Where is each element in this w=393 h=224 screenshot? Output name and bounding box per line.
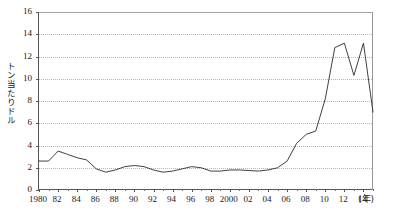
x-tick-label: 86 — [91, 194, 100, 204]
x-tick-label: 04 — [263, 194, 272, 204]
y-tick-label: 14 — [8, 29, 32, 38]
x-tick-label: 02 — [243, 194, 252, 204]
x-tick-label: 12 — [339, 194, 348, 204]
y-tick-label: 16 — [8, 7, 32, 16]
x-tick-label: 92 — [148, 194, 157, 204]
y-tick-label: 12 — [8, 52, 32, 61]
x-tick-label: 96 — [186, 194, 195, 204]
x-axis-unit-label: (年) — [358, 194, 374, 204]
x-tick-label: 88 — [110, 194, 119, 204]
x-tick-label: 08 — [301, 194, 310, 204]
x-tick-label: 2000 — [220, 194, 238, 204]
x-tick-label: 82 — [53, 194, 62, 204]
x-tick-label: 84 — [72, 194, 81, 204]
series-line-chart — [39, 12, 373, 190]
y-tick-label: 4 — [8, 141, 32, 150]
y-tick-label: 0 — [8, 185, 32, 194]
series-line-path — [39, 43, 373, 172]
x-tick-label: 06 — [282, 194, 291, 204]
x-tick-label: 10 — [320, 194, 329, 204]
x-tick-mark — [373, 189, 374, 191]
x-tick-label: 94 — [167, 194, 176, 204]
x-tick-label: 90 — [129, 194, 138, 204]
y-axis-title: トン当たりドル — [3, 62, 15, 125]
plot-area — [38, 12, 372, 190]
x-tick-label: 98 — [205, 194, 214, 204]
chart-figure: トン当たりドル 0246810121416 198082848688909294… — [0, 0, 393, 224]
y-tick-label: 2 — [8, 163, 32, 172]
x-tick-label: 1980 — [29, 194, 47, 204]
